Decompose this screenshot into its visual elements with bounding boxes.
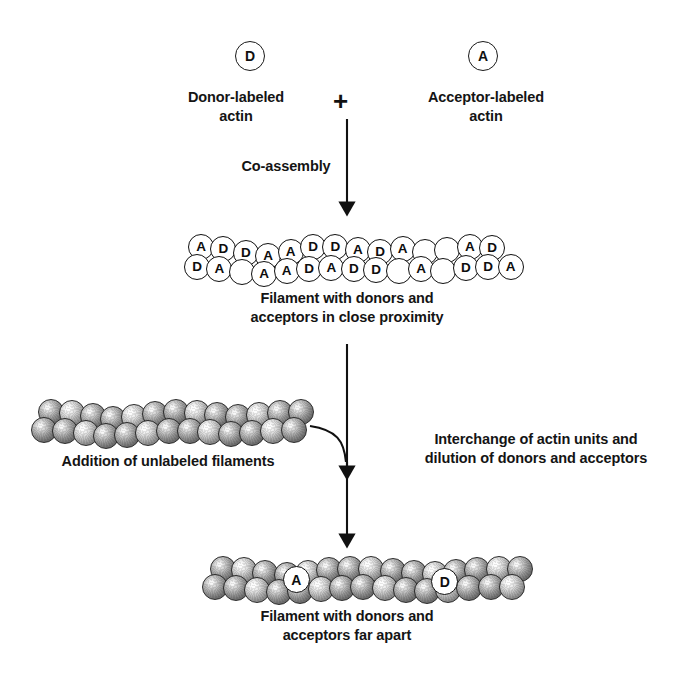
diluted-donor-marker: D (431, 568, 458, 595)
diluted-filament-caption: Filament with donors and acceptors far a… (215, 607, 479, 645)
actin-subunit (281, 417, 307, 443)
diagram-canvas: D Donor-labeled actin A Acceptor-labeled… (0, 0, 694, 678)
diluted-acceptor-marker: A (283, 566, 310, 593)
diluted-filament: AD (0, 0, 694, 678)
monomer-a: A (498, 254, 524, 280)
actin-subunit (499, 574, 525, 600)
monomer-a: A (251, 261, 277, 287)
